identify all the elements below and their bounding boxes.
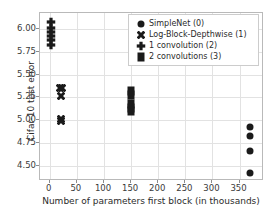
legend-item-label: SimpleNet (0) [149,18,204,29]
x-tick-mark [211,180,212,183]
x-tick-label: 150 [122,183,138,193]
legend-item-label: 1 convolution (2) [149,40,217,51]
x-tick-mark [130,180,131,183]
data-point-square [128,90,135,99]
x-tick-label: 350 [230,183,246,193]
data-point-x [57,92,65,100]
x-tick-label: 300 [203,183,219,193]
x-tick-label: 250 [176,183,192,193]
legend-item-circle[interactable]: SimpleNet (0) [133,18,254,29]
x-tick-label: 200 [149,183,165,193]
y-tick-mark [36,96,39,97]
y-tick-label: 4.75 [17,137,36,147]
marker-square [138,52,145,61]
x-tick-mark [157,180,158,183]
data-point-x [57,117,65,125]
y-tick-mark [36,165,39,166]
y-tick-mark [36,74,39,75]
y-tick-label: 5.25 [17,91,36,101]
data-point-circle [247,148,254,155]
gridline-horizontal [40,97,262,98]
gridline-vertical [104,13,105,179]
gridline-horizontal [40,143,262,144]
legend-item-square[interactable]: 2 convolutions (3) [133,51,254,62]
y-tick-mark [36,119,39,120]
x-tick-label: 100 [95,183,111,193]
legend-marker-plus-icon [133,40,149,51]
scatter-chart-figure: Cifar-10 test error Number of parameters… [0,0,272,218]
y-tick-mark [36,28,39,29]
legend-item-x[interactable]: Log-Block-Depthwise (1) [133,29,254,40]
y-tick-label: 5.00 [17,114,36,124]
data-point-plus [47,40,56,49]
gridline-horizontal [40,166,262,167]
chart-legend: SimpleNet (0)Log-Block-Depthwise (1)1 co… [128,14,259,66]
y-tick-label: 4.50 [17,160,36,170]
legend-marker-square-icon [133,51,149,62]
x-tick-label: 0 [46,183,51,193]
x-tick-mark [76,180,77,183]
legend-item-plus[interactable]: 1 convolution (2) [133,40,254,51]
x-tick-mark [184,180,185,183]
data-point-circle [247,123,254,130]
x-tick-mark [49,180,50,183]
y-tick-mark [36,51,39,52]
gridline-horizontal [40,75,262,76]
y-tick-label: 6.00 [17,23,36,33]
y-tick-label: 5.75 [17,46,36,56]
data-point-circle [247,169,254,176]
y-tick-label: 5.50 [17,69,36,79]
legend-marker-circle-icon [133,18,149,29]
data-point-circle [247,132,254,139]
x-axis-title: Number of parameters first block (in tho… [39,196,263,206]
legend-item-label: 2 convolutions (3) [149,51,221,62]
x-tick-label: 50 [70,183,81,193]
legend-item-label: Log-Block-Depthwise (1) [149,29,247,40]
marker-x [137,31,145,39]
gridline-vertical [77,13,78,179]
x-tick-mark [239,180,240,183]
gridline-horizontal [40,120,262,121]
marker-plus [137,41,146,50]
y-tick-mark [36,142,39,143]
marker-circle [138,20,145,27]
x-tick-mark [103,180,104,183]
data-point-square [128,107,135,116]
legend-marker-x-icon [133,29,149,40]
